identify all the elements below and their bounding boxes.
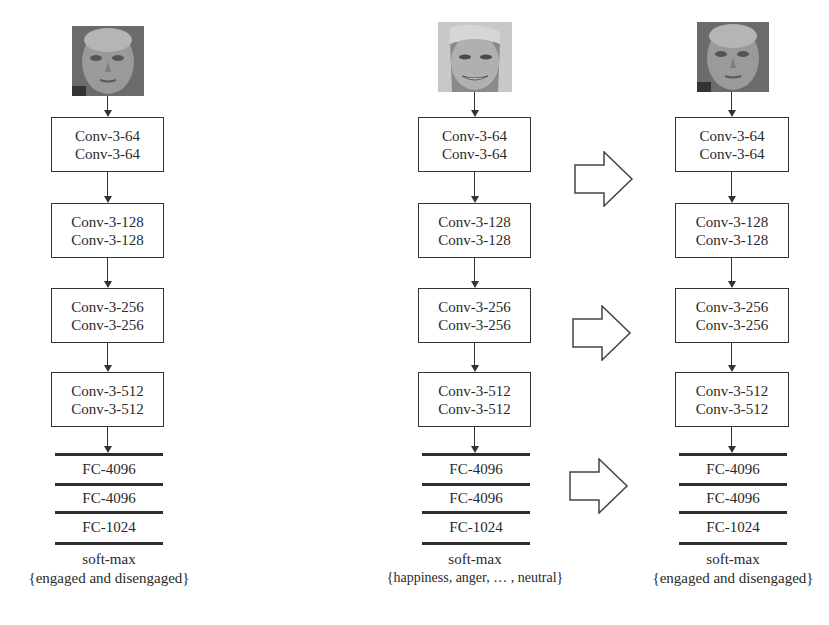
flow-line: [474, 92, 475, 110]
conv-label: Conv-3-64: [75, 145, 140, 163]
arrow-head-icon: [104, 365, 112, 372]
conv-label: Conv-3-256: [71, 298, 144, 316]
conv-block-128: Conv-3-128 Conv-3-128: [51, 203, 164, 258]
fc-divider: [55, 511, 163, 514]
transfer-arrow-icon: [572, 305, 632, 361]
conv-label: Conv-3-128: [696, 213, 769, 231]
conv-label: Conv-3-64: [700, 127, 765, 145]
fc-layer-label: FC-1024: [422, 518, 530, 536]
fc-divider: [679, 483, 787, 486]
fc-divider: [422, 511, 530, 514]
arrow-head-icon: [728, 110, 736, 117]
flow-line: [731, 92, 732, 110]
conv-label: Conv-3-64: [700, 145, 765, 163]
conv-block-256: Conv-3-256 Conv-3-256: [418, 288, 531, 343]
softmax-label: soft-max: [350, 550, 600, 568]
fc-layer-label: FC-4096: [422, 489, 530, 507]
conv-label: Conv-3-512: [438, 400, 511, 418]
arrow-head-icon: [471, 110, 479, 117]
flow-line: [107, 96, 108, 110]
output-classes-label: {engaged and disengaged}: [0, 569, 218, 587]
conv-block-256: Conv-3-256 Conv-3-256: [675, 288, 789, 343]
conv-block-64: Conv-3-64 Conv-3-64: [51, 117, 164, 172]
softmax-label: soft-max: [623, 550, 829, 568]
flow-line: [731, 343, 732, 365]
fc-layer-label: FC-4096: [422, 460, 530, 478]
fc-layer-label: FC-4096: [55, 489, 163, 507]
arrow-head-icon: [471, 281, 479, 288]
conv-block-512: Conv-3-512 Conv-3-512: [418, 372, 531, 427]
conv-label: Conv-3-512: [71, 382, 144, 400]
fc-divider: [422, 542, 530, 545]
fc-divider: [679, 542, 787, 545]
flow-line: [474, 427, 475, 447]
conv-label: Conv-3-512: [696, 400, 769, 418]
arrow-head-icon: [728, 365, 736, 372]
conv-label: Conv-3-128: [438, 213, 511, 231]
conv-label: Conv-3-64: [75, 127, 140, 145]
conv-label: Conv-3-512: [696, 382, 769, 400]
arrow-head-icon: [104, 446, 112, 453]
conv-label: Conv-3-128: [438, 231, 511, 249]
arrow-head-icon: [471, 446, 479, 453]
conv-label: Conv-3-64: [442, 145, 507, 163]
conv-block-256: Conv-3-256 Conv-3-256: [51, 288, 164, 343]
fc-layer-label: FC-4096: [55, 460, 163, 478]
conv-label: Conv-3-256: [696, 298, 769, 316]
fc-divider: [679, 453, 787, 456]
fc-layer-label: FC-1024: [55, 518, 163, 536]
conv-label: Conv-3-64: [442, 127, 507, 145]
conv-label: Conv-3-512: [71, 400, 144, 418]
arrow-head-icon: [471, 365, 479, 372]
conv-label: Conv-3-256: [438, 316, 511, 334]
face-image-right: [697, 22, 769, 92]
flow-line: [107, 343, 108, 365]
conv-label: Conv-3-128: [71, 213, 144, 231]
flow-line: [107, 258, 108, 281]
output-classes-label: {happiness, anger, … , neutral}: [350, 569, 600, 587]
arrow-head-icon: [104, 196, 112, 203]
fc-divider: [422, 483, 530, 486]
conv-label: Conv-3-256: [438, 298, 511, 316]
conv-label: Conv-3-128: [71, 231, 144, 249]
conv-label: Conv-3-256: [71, 316, 144, 334]
conv-label: Conv-3-512: [438, 382, 511, 400]
fc-divider: [422, 453, 530, 456]
flow-line: [474, 343, 475, 365]
arrow-head-icon: [728, 196, 736, 203]
softmax-label: soft-max: [0, 550, 218, 568]
arrow-head-icon: [104, 281, 112, 288]
arrow-head-icon: [728, 281, 736, 288]
fc-divider: [55, 542, 163, 545]
flow-line: [731, 258, 732, 281]
conv-block-64: Conv-3-64 Conv-3-64: [418, 117, 531, 172]
fc-layer-label: FC-4096: [679, 489, 787, 507]
output-classes-label: {engaged and disengaged}: [623, 569, 829, 587]
conv-block-128: Conv-3-128 Conv-3-128: [675, 203, 789, 258]
conv-block-512: Conv-3-512 Conv-3-512: [51, 372, 164, 427]
conv-label: Conv-3-128: [696, 231, 769, 249]
arrow-head-icon: [728, 446, 736, 453]
flow-line: [474, 258, 475, 281]
face-image-left: [72, 26, 144, 96]
fc-divider: [679, 511, 787, 514]
flow-line: [107, 172, 108, 196]
flow-line: [731, 427, 732, 447]
conv-block-512: Conv-3-512 Conv-3-512: [675, 372, 789, 427]
face-image-middle: [438, 22, 512, 92]
flow-line: [731, 172, 732, 196]
flow-line: [474, 172, 475, 196]
fc-layer-label: FC-4096: [679, 460, 787, 478]
conv-label: Conv-3-256: [696, 316, 769, 334]
transfer-arrow-icon: [574, 151, 634, 207]
conv-block-64: Conv-3-64 Conv-3-64: [675, 117, 789, 172]
fc-divider: [55, 453, 163, 456]
conv-block-128: Conv-3-128 Conv-3-128: [418, 203, 531, 258]
fc-divider: [55, 483, 163, 486]
arrow-head-icon: [104, 110, 112, 117]
arrow-head-icon: [471, 196, 479, 203]
fc-layer-label: FC-1024: [679, 518, 787, 536]
flow-line: [107, 427, 108, 447]
transfer-arrow-icon: [569, 458, 629, 514]
